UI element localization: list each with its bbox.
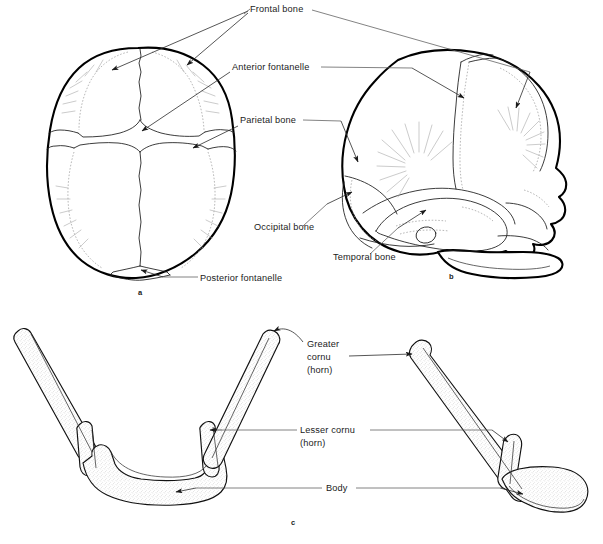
- panel-letter-c: c: [291, 518, 295, 527]
- label-greater-cornu-line3: (horn): [307, 365, 332, 375]
- panel-letter-a: a: [138, 288, 143, 297]
- label-temporal-bone: Temporal bone: [333, 252, 396, 262]
- label-greater-cornu-line1: Greater: [307, 339, 339, 349]
- label-parietal-bone: Parietal bone: [240, 115, 296, 125]
- label-body: Body: [326, 483, 348, 493]
- label-anterior-fontanelle: Anterior fontanelle: [232, 62, 309, 72]
- anatomy-figure: Frontal bone Anterior fontanelle Parieta…: [0, 0, 603, 544]
- figure-canvas: Frontal bone Anterior fontanelle Parieta…: [0, 0, 603, 544]
- label-frontal-bone: Frontal bone: [250, 4, 303, 14]
- label-lesser-cornu-line1: Lesser cornu: [300, 425, 355, 435]
- skull-outline-lateral: [342, 50, 566, 258]
- label-lesser-cornu-line2: (horn): [300, 438, 325, 448]
- label-posterior-fontanelle: Posterior fontanelle: [200, 273, 282, 283]
- label-greater-cornu-line2: cornu: [307, 352, 331, 362]
- panel-letter-b: b: [449, 272, 454, 281]
- label-occipital-bone: Occipital bone: [254, 222, 314, 232]
